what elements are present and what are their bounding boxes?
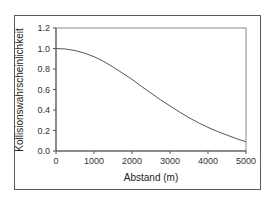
y-tick-label: 0.8 xyxy=(37,64,50,74)
plot-border xyxy=(56,28,246,151)
line-chart: 0.00.20.40.60.81.01.2 010002000300040005… xyxy=(0,0,276,202)
x-tick-label: 3000 xyxy=(160,156,180,166)
x-tick-label: 0 xyxy=(53,156,58,166)
x-tick-label: 2000 xyxy=(122,156,142,166)
x-tick-label: 4000 xyxy=(198,156,218,166)
x-axis: 010002000300040005000 xyxy=(53,151,256,166)
y-axis-title: Kollisionswahrscheinlichkeit xyxy=(14,28,25,152)
y-tick-label: 1.0 xyxy=(37,44,50,54)
x-axis-title: Abstand (m) xyxy=(124,172,178,183)
y-tick-label: 0.2 xyxy=(37,126,50,136)
y-tick-label: 1.2 xyxy=(37,23,50,33)
y-tick-label: 0.6 xyxy=(37,85,50,95)
x-tick-label: 1000 xyxy=(84,156,104,166)
x-tick-label: 5000 xyxy=(236,156,256,166)
data-series xyxy=(56,49,246,142)
y-tick-label: 0.4 xyxy=(37,105,50,115)
series-line xyxy=(56,49,246,142)
plot-area xyxy=(56,28,246,151)
y-tick-label: 0.0 xyxy=(37,146,50,156)
y-axis: 0.00.20.40.60.81.01.2 xyxy=(37,23,56,156)
